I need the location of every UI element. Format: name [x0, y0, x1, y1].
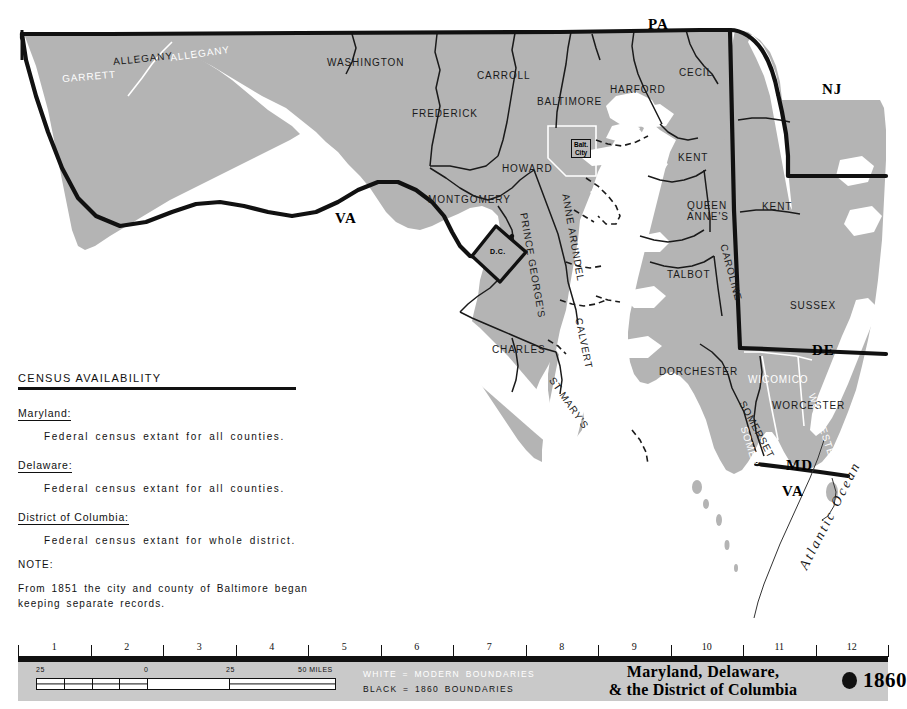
ruler-number: 8 [559, 641, 564, 652]
ruler-number: 10 [702, 641, 712, 652]
map-title-line1: Maryland, Delaware, [563, 663, 843, 681]
census-state-dc: District of Columbia: [18, 511, 129, 525]
ruler-tick [598, 645, 599, 657]
ruler-tick [453, 645, 454, 657]
census-state-maryland: Maryland: [18, 407, 71, 421]
scale-div-2 [92, 679, 93, 689]
ruler-number: 11 [774, 641, 784, 652]
census-body-delaware: Federal census extant for all counties. [44, 483, 318, 494]
ruler-tick [671, 645, 672, 657]
ruler-tick [743, 645, 744, 657]
baltimore-city-line1: Balt. [574, 141, 588, 149]
census-state-delaware: Delaware: [18, 459, 72, 473]
ruler-number: 3 [197, 641, 202, 652]
map-title: Maryland, Delaware, & the District of Co… [563, 663, 843, 699]
scale-label-mid: 25 [226, 666, 235, 673]
scale-midline-2 [229, 683, 335, 684]
ruler-tick [308, 645, 309, 657]
scale-label-left: 25 [36, 666, 45, 673]
ruler-tick [381, 645, 382, 657]
map-year: 1860 [863, 668, 907, 693]
note-body: From 1851 the city and county of Baltimo… [18, 581, 318, 611]
ruler-number: 2 [124, 641, 129, 652]
ruler-tick [888, 645, 889, 657]
band-top-rule [18, 659, 888, 662]
census-heading: CENSUS AVAILABILITY [18, 372, 318, 387]
census-entry-dc: District of Columbia: Federal census ext… [18, 507, 318, 546]
ruler-number: 12 [847, 641, 857, 652]
census-body-maryland: Federal census extant for all counties. [44, 431, 318, 442]
ruler-number: 4 [269, 641, 274, 652]
ruler-number: 7 [487, 641, 492, 652]
ruler-tick [236, 645, 237, 657]
ruler-number: 1 [52, 641, 57, 652]
scale-div-4 [147, 679, 148, 689]
baltimore-city-line2: City [574, 149, 588, 157]
ruler-number: 5 [342, 641, 347, 652]
scale-label-zero: 0 [144, 666, 148, 673]
note-heading: NOTE: [18, 559, 318, 570]
legend-white-boundaries: WHITE = MODERN BOUNDARIES [363, 669, 535, 679]
ruler-tick [816, 645, 817, 657]
ruler-tick [91, 645, 92, 657]
scale-div-3 [119, 679, 120, 689]
scale-div-1 [64, 679, 65, 689]
census-body-dc: Federal census extant for whole district… [44, 535, 318, 546]
title-bullet-dot [842, 672, 857, 689]
ruler-tick [18, 645, 19, 657]
ruler-number: 6 [414, 641, 419, 652]
legend-band: 25 0 25 50 MILES WHITE = MODERN BOUNDARI… [18, 659, 888, 701]
ruler-scale: 123456789101112 [0, 638, 900, 660]
map-title-line2: & the District of Columbia [563, 681, 843, 699]
ruler-tick [526, 645, 527, 657]
census-entry-maryland: Maryland: Federal census extant for all … [18, 403, 318, 442]
ruler-tick [163, 645, 164, 657]
mileage-scale-bar [36, 678, 336, 690]
baltimore-city-box: Balt. City [571, 139, 591, 158]
scale-label-right: 50 MILES [298, 666, 333, 673]
census-availability-panel: CENSUS AVAILABILITY Maryland: Federal ce… [18, 372, 318, 611]
legend-black-boundaries: BLACK = 1860 BOUNDARIES [363, 684, 514, 694]
census-heading-rule [18, 387, 296, 390]
ruler-number: 9 [632, 641, 637, 652]
census-entry-delaware: Delaware: Federal census extant for all … [18, 455, 318, 494]
